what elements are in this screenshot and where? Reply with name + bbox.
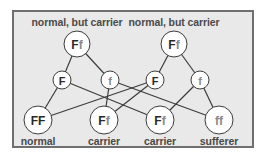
offspring-label: carrier [88, 135, 120, 147]
offspring-label: normal [21, 135, 55, 147]
parent-label: normal, but carrier [32, 16, 123, 28]
gamete-node-1: F [53, 71, 72, 90]
dominant-allele: F [59, 74, 66, 86]
recessive-allele: ff [215, 113, 223, 127]
parent-node-2: Ff [161, 31, 188, 58]
gamete-node-3: F [146, 71, 165, 90]
dominant-allele: FF [31, 113, 46, 127]
parent-node-1: Ff [64, 31, 91, 58]
gamete-node-4: f [191, 71, 210, 90]
dominant-allele: F [152, 74, 159, 86]
recessive-allele: f [108, 74, 112, 86]
recessive-allele: f [79, 37, 83, 51]
dominant-allele: F [71, 37, 78, 51]
offspring-node-4: ff [205, 106, 234, 135]
offspring-node-3: Ff [146, 106, 175, 135]
dominant-allele: F [98, 113, 105, 127]
recessive-allele: f [198, 74, 202, 86]
offspring-label: sufferer [200, 135, 238, 147]
parent-label: normal, but carrier [129, 16, 220, 28]
gamete-node-2: f [101, 71, 120, 90]
dominant-allele: F [168, 37, 175, 51]
dominant-allele: F [154, 113, 161, 127]
recessive-allele: f [106, 113, 110, 127]
offspring-label: carrier [144, 135, 176, 147]
recessive-allele: f [176, 37, 180, 51]
offspring-node-1: FF [24, 106, 53, 135]
recessive-allele: f [162, 113, 166, 127]
offspring-node-2: Ff [90, 106, 119, 135]
